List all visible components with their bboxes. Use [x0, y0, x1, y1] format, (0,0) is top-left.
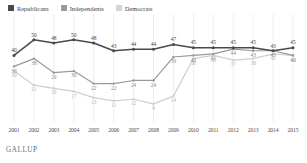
point-republicans-2012 [232, 46, 235, 49]
value-label-republicans-2015: 45 [290, 39, 296, 45]
value-label-republicans-2006: 43 [111, 43, 117, 49]
value-label-democrats-2004: 17 [71, 93, 77, 99]
value-label-republicans-2001: 40 [11, 47, 17, 53]
value-label-independents-2005: 22 [91, 85, 97, 91]
value-label-republicans-2010: 45 [191, 39, 197, 45]
x-tick-2003: 2003 [48, 127, 59, 133]
x-tick-2002: 2002 [29, 127, 40, 133]
legend-item-democrats: Democrats [116, 5, 153, 12]
chart-legend: Republicans Independents Democrats [8, 2, 153, 14]
x-tick-2006: 2006 [108, 127, 119, 133]
value-label-independents-2014: 43 [270, 52, 276, 58]
legend-label-republicans: Republicans [17, 5, 49, 12]
point-republicans-2015 [292, 46, 295, 49]
value-label-democrats-2007: 12 [131, 100, 137, 106]
x-axis-tick-labels: 2001200220032004200520062007200820092010… [0, 127, 307, 139]
value-label-democrats-2006: 11 [111, 102, 116, 108]
x-tick-2008: 2008 [148, 127, 159, 133]
x-tick-2011: 2011 [208, 127, 219, 133]
value-label-republicans-2013: 45 [250, 39, 256, 45]
point-republicans-2001 [13, 54, 16, 57]
point-republicans-2011 [212, 46, 215, 49]
value-label-independents-2003: 29 [51, 74, 57, 80]
legend-swatch-republicans [8, 5, 14, 11]
point-republicans-2007 [132, 48, 135, 51]
value-label-republicans-2014: 43 [270, 43, 276, 49]
value-label-independents-2004: 30 [71, 72, 77, 78]
point-republicans-2010 [192, 46, 195, 49]
x-tick-2001: 2001 [9, 127, 20, 133]
value-label-independents-2002: 38 [31, 60, 37, 66]
point-republicans-2013 [252, 46, 255, 49]
point-republicans-2005 [92, 41, 95, 44]
value-label-republicans-2008: 44 [151, 41, 157, 47]
legend-item-republicans: Republicans [8, 5, 49, 12]
x-tick-2005: 2005 [88, 127, 99, 133]
x-tick-2015: 2015 [288, 127, 299, 133]
point-republicans-2008 [152, 48, 155, 51]
x-tick-2012: 2012 [228, 127, 239, 133]
value-label-independents-2007: 24 [131, 82, 137, 88]
legend-label-democrats: Democrats [125, 5, 153, 12]
point-republicans-2009 [172, 43, 175, 46]
value-label-democrats-2013: 38 [250, 60, 256, 66]
value-label-republicans-2012: 45 [231, 39, 237, 45]
value-label-republicans-2005: 48 [91, 35, 97, 41]
x-tick-2009: 2009 [168, 127, 179, 133]
value-label-independents-2010: 40 [191, 57, 197, 63]
value-label-democrats-2003: 19 [51, 89, 57, 95]
x-tick-2014: 2014 [268, 127, 279, 133]
value-label-republicans-2002: 50 [31, 32, 37, 38]
point-republicans-2006 [112, 49, 115, 52]
value-label-republicans-2004: 50 [71, 32, 77, 38]
value-label-republicans-2003: 48 [51, 35, 57, 41]
value-label-democrats-2002: 21 [31, 86, 37, 92]
value-label-independents-2009: 39 [171, 58, 177, 64]
value-label-republicans-2009: 47 [171, 36, 177, 42]
value-label-republicans-2007: 44 [131, 41, 137, 47]
value-label-independents-2013: 43 [250, 52, 256, 58]
point-republicans-2004 [72, 38, 75, 41]
value-label-democrats-2012: 37 [231, 61, 237, 67]
legend-swatch-independents [61, 5, 67, 11]
value-label-independents-2006: 22 [111, 85, 117, 91]
legend-item-independents: Independents [61, 5, 104, 12]
line-chart-svg: 3021191713111291438403738414033382930222… [0, 14, 307, 126]
legend-swatch-democrats [116, 5, 122, 11]
value-label-independents-2015: 40 [290, 57, 296, 63]
x-tick-2013: 2013 [248, 127, 259, 133]
value-label-independents-2012: 44 [231, 50, 237, 56]
source-label: GALLUP [6, 146, 38, 154]
value-label-republicans-2011: 45 [211, 39, 217, 45]
x-tick-2007: 2007 [128, 127, 139, 133]
point-republicans-2014 [272, 49, 275, 52]
point-republicans-2002 [32, 38, 35, 41]
chart-container: Republicans Independents Democrats 30211… [0, 0, 307, 163]
legend-label-independents: Independents [70, 5, 104, 12]
value-label-democrats-2005: 13 [91, 99, 97, 105]
value-label-democrats-2008: 9 [152, 105, 155, 111]
value-label-independents-2001: 33 [11, 68, 17, 74]
x-tick-2010: 2010 [188, 127, 199, 133]
point-republicans-2003 [52, 41, 55, 44]
value-label-independents-2008: 24 [151, 82, 157, 88]
x-tick-2004: 2004 [68, 127, 79, 133]
chart-plot-area: 3021191713111291438403738414033382930222… [0, 14, 307, 126]
value-label-independents-2011: 41 [211, 55, 217, 61]
value-label-democrats-2009: 14 [171, 97, 177, 103]
